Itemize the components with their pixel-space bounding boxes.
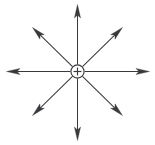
field-line-northeast [83,28,123,67]
field-line-north [74,5,80,65]
field-line-southeast-shaft [83,76,117,109]
field-line-northwest [33,28,73,67]
field-line-northeast-shaft [83,33,117,66]
field-line-northwest-shaft [39,33,73,66]
point-charge [71,65,84,78]
field-line-west [7,68,71,74]
field-diagram-canvas [0,0,155,145]
field-line-southeast [83,76,123,115]
field-line-east [85,68,150,74]
field-line-southwest [33,76,73,115]
field-line-southwest-shaft [39,76,73,109]
electric-field-figure: + Electric field of a positive point cha… [0,0,155,145]
field-line-south [74,79,80,141]
